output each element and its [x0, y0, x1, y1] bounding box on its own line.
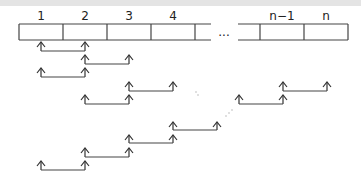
ellipsis-dot: [195, 91, 196, 92]
ellipsis: ...: [218, 25, 229, 39]
comparison-pairs: [37, 42, 331, 170]
cell-label: n: [322, 9, 330, 23]
comparison-pair: [235, 95, 287, 104]
cell-label: 1: [37, 9, 45, 23]
ellipsis-dot: [197, 94, 198, 95]
ellipsis-dot: [231, 109, 232, 110]
ellipsis-dot: [228, 112, 229, 113]
comparison-pair: [169, 122, 221, 130]
cell-label: 3: [125, 9, 133, 23]
comparison-diagram: 1234n−1n...: [0, 0, 361, 180]
comparison-pair: [81, 55, 133, 64]
cell-label: 2: [81, 9, 89, 23]
comparison-pair: [37, 68, 89, 77]
comparison-pair: [279, 82, 331, 91]
comparison-pair: [37, 161, 89, 170]
comparison-pair: [81, 148, 133, 157]
ellipsis-dots: [195, 91, 232, 116]
comparison-pair: [81, 95, 133, 104]
cell-label: n−1: [269, 9, 294, 23]
comparison-pair: [125, 135, 177, 143]
array-cells: [19, 24, 348, 40]
cell-label: 4: [169, 9, 177, 23]
comparison-pair: [125, 82, 177, 91]
ellipsis-dot: [225, 115, 226, 116]
comparison-pair: [37, 42, 89, 51]
